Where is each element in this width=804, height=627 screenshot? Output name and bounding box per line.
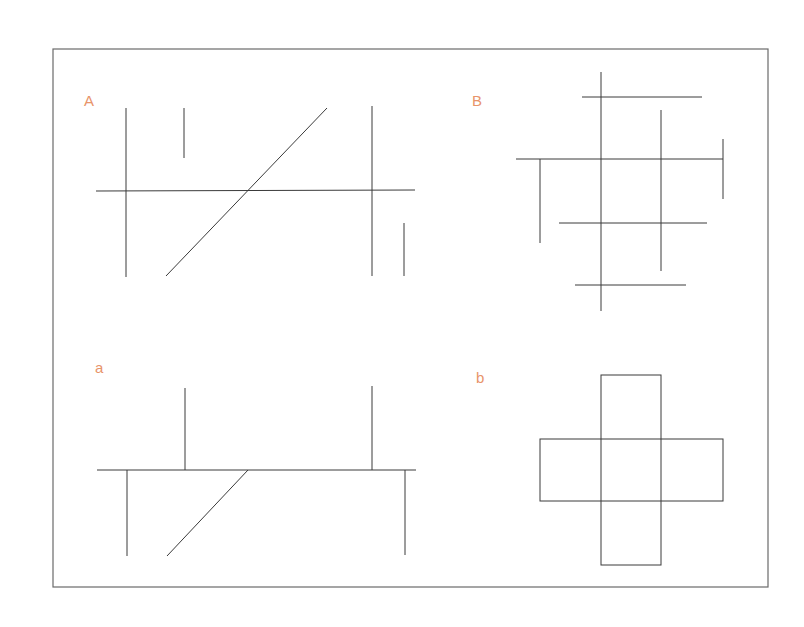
panel-label: a <box>95 359 104 376</box>
line-segment <box>166 108 327 276</box>
line-segment <box>167 470 248 556</box>
diagram-canvas: ABab <box>0 0 804 627</box>
panel-label: b <box>476 369 484 386</box>
line-segment <box>96 190 415 191</box>
panel-B: B <box>472 72 723 311</box>
panel-b: b <box>476 369 723 565</box>
panel-a: a <box>95 359 416 556</box>
panel-A: A <box>84 92 415 277</box>
panel-label: B <box>472 92 482 109</box>
rectangle-shape <box>540 439 723 501</box>
rectangle-shape <box>601 375 661 565</box>
panel-label: A <box>84 92 94 109</box>
